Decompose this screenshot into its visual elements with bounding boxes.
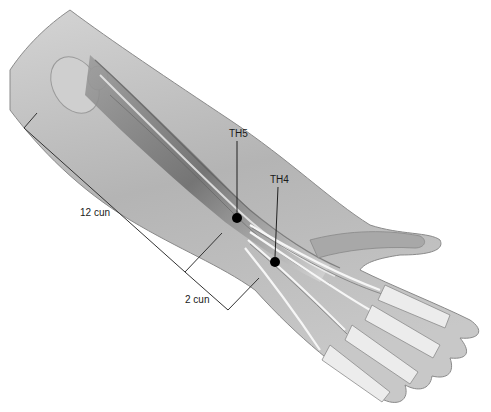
measurement-2-cun-label: 2 cun: [185, 295, 209, 305]
th5-label: TH5: [229, 129, 248, 139]
acupuncture-forearm-diagram: TH5 TH4 12 cun 2 cun: [0, 0, 491, 412]
th4-label: TH4: [270, 175, 289, 185]
th4-point: [270, 257, 280, 267]
th5-point: [232, 213, 242, 223]
forearm-illustration: [0, 0, 491, 412]
measurement-12-cun-label: 12 cun: [80, 208, 110, 218]
